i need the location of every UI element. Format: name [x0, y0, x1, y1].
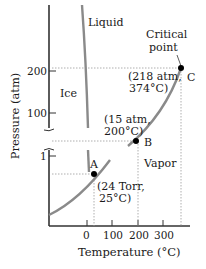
y-tick-label-100: 100 — [27, 108, 47, 119]
point-A — [91, 171, 97, 177]
region-vapor-label: Vapor — [144, 158, 176, 170]
point-A-note-2: 25°C) — [99, 193, 131, 205]
y-tick-label-1: 1 — [40, 151, 47, 162]
solid-liquid-curve-lower — [88, 150, 89, 172]
region-liquid-label: Liquid — [88, 17, 124, 29]
critical-point-label-2: point — [149, 42, 178, 54]
point-C-note-2: 374°C) — [129, 83, 168, 95]
critical-point-leader — [177, 55, 181, 66]
x-tick-label-0: 0 — [83, 230, 90, 241]
point-B — [133, 138, 139, 144]
point-B-note-2: 200°C) — [104, 126, 143, 138]
point-C-label: C — [187, 72, 195, 84]
critical-point-label-1: Critical — [146, 29, 187, 41]
x-tick-label-300: 300 — [154, 230, 174, 241]
axis-break-icon — [44, 129, 54, 150]
y-tick-label-200: 200 — [27, 66, 47, 77]
x-axis-title: Temperature (°C) — [78, 246, 181, 258]
x-tick-label-100: 100 — [103, 230, 123, 241]
y-axis-title: Pressure (atm) — [9, 71, 21, 161]
point-A-label: A — [90, 159, 98, 171]
point-B-label: B — [144, 137, 152, 149]
region-ice-label: Ice — [60, 88, 77, 100]
x-tick-label-200: 200 — [129, 230, 149, 241]
